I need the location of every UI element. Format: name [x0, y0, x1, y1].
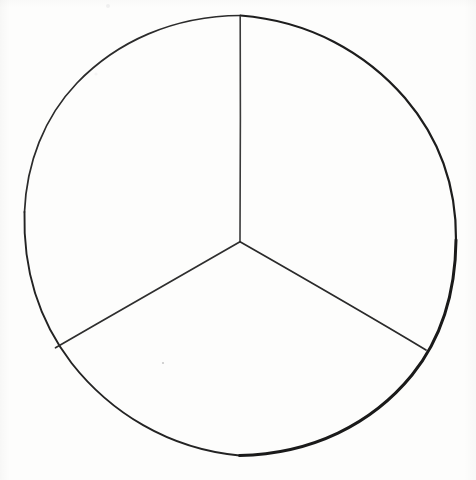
circle-arc-upper-left — [25, 16, 241, 213]
faint-smudge-upper-left — [94, 72, 97, 75]
sector-upper-right — [240, 16, 461, 350]
radius-lower-right — [240, 242, 426, 350]
sector-upper-left — [22, 16, 240, 348]
circle-arc-upper-right — [241, 16, 457, 241]
radius-lower-left — [56, 242, 241, 348]
figure-canvas — [0, 0, 476, 480]
circle-arc-lower-left — [24, 212, 239, 456]
circle-thirds-drawing — [0, 0, 476, 480]
faint-smudge-top — [106, 4, 110, 8]
sector-bottom — [56, 242, 427, 454]
pencil-speck — [162, 362, 164, 364]
sectors-group — [22, 16, 461, 454]
